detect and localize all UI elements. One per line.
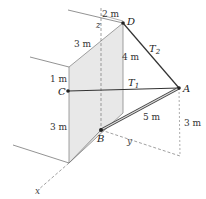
point-c: [66, 89, 70, 93]
point-b: [99, 128, 103, 132]
dim-right-3m: 3 m: [184, 118, 202, 128]
point-a: [177, 86, 181, 90]
label-t1: T1: [128, 77, 139, 90]
dim-boom-5m: 5 m: [143, 112, 161, 122]
dim-2m: 2 m: [102, 9, 120, 19]
dim-vertical-4m: 4 m: [122, 52, 140, 62]
label-t2: T2: [149, 43, 161, 56]
label-b: B: [96, 133, 104, 144]
label-x-axis: x: [35, 186, 40, 196]
y-axis: [101, 130, 180, 156]
dim-wall-bottom-3m: 3 m: [50, 122, 68, 132]
label-a: A: [182, 83, 190, 94]
label-c: C: [58, 86, 66, 97]
dim-wall-1m: 1 m: [50, 74, 68, 84]
x-axis: [38, 163, 69, 190]
label-d: D: [126, 16, 135, 27]
diagram-canvas: D C A B T2 T1 z y x 2 m 3 m 1 m 3 m 4 m …: [0, 0, 206, 199]
mid-wall-edge: [30, 57, 69, 67]
a-vertical-projection: [179, 88, 180, 156]
label-y-axis: y: [126, 136, 133, 146]
label-z-axis: z: [95, 20, 101, 30]
floor-edge: [13, 145, 69, 163]
point-d: [121, 21, 125, 25]
dim-wall-top-3m: 3 m: [74, 39, 92, 49]
